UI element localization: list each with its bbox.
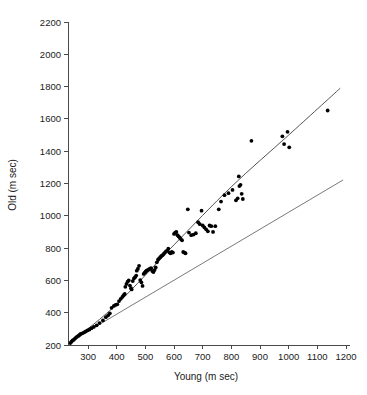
y-tick-label: 400 (45, 307, 61, 318)
x-tick-label: 800 (223, 351, 239, 362)
y-tick-label: 200 (45, 340, 61, 351)
data-point (286, 130, 290, 134)
data-point (139, 280, 143, 284)
data-point (194, 231, 198, 235)
data-point (236, 196, 240, 200)
x-tick-label: 300 (80, 351, 96, 362)
data-point (219, 200, 223, 204)
y-tick-label: 1800 (40, 81, 61, 92)
regression-fit-curve (69, 88, 341, 344)
x-tick-label: 700 (195, 351, 211, 362)
data-point (280, 134, 284, 138)
data-point (137, 264, 141, 268)
data-point (184, 251, 188, 255)
data-point (227, 191, 231, 195)
data-point (237, 174, 241, 178)
data-point (217, 207, 221, 211)
data-point (223, 193, 227, 197)
scatter-plot-figure: 2004006008001000120014001600180020002200… (0, 0, 367, 395)
x-tick-label: 400 (109, 351, 125, 362)
data-point (115, 302, 119, 306)
y-tick-label: 1200 (40, 178, 61, 189)
plot-canvas: 2004006008001000120014001600180020002200… (0, 0, 367, 395)
data-point (206, 229, 210, 233)
data-point (101, 319, 105, 323)
data-point (239, 183, 243, 187)
data-point (287, 145, 291, 149)
y-tick-label: 600 (45, 275, 61, 286)
y-axis-tick-labels: 2004006008001000120014001600180020002200 (40, 17, 61, 351)
data-point (213, 224, 217, 228)
data-point (171, 251, 175, 255)
x-axis-ticks (88, 345, 346, 349)
data-points-group (68, 109, 329, 345)
data-point (240, 192, 244, 196)
data-point (231, 188, 235, 192)
data-point (154, 266, 158, 270)
y-tick-label: 1600 (40, 113, 61, 124)
data-point (108, 311, 112, 315)
data-point (123, 292, 127, 296)
y-axis-title: Old (m sec) (7, 159, 18, 211)
y-tick-label: 1400 (40, 146, 61, 157)
x-axis-tick-labels: 300400500600700800900100011001200 (80, 351, 356, 362)
x-tick-label: 1000 (278, 351, 299, 362)
data-point (98, 321, 102, 325)
x-tick-label: 1200 (335, 351, 356, 362)
y-tick-label: 1000 (40, 210, 61, 221)
data-point (209, 224, 213, 228)
y-tick-label: 2200 (40, 17, 61, 28)
data-point (241, 197, 245, 201)
data-point (326, 109, 330, 113)
y-tick-label: 800 (45, 243, 61, 254)
data-point (130, 288, 134, 292)
x-tick-label: 1100 (307, 351, 327, 362)
x-tick-label: 600 (166, 351, 182, 362)
data-point (166, 247, 170, 251)
data-point (200, 209, 204, 213)
y-tick-label: 2000 (40, 49, 61, 60)
data-point (134, 274, 138, 278)
data-point (211, 230, 215, 234)
data-point (174, 230, 178, 234)
y-axis-ticks (64, 22, 68, 345)
data-point (180, 238, 184, 242)
identity-reference-line (69, 180, 344, 343)
data-point (186, 207, 190, 211)
x-tick-label: 500 (137, 351, 153, 362)
data-point (282, 142, 286, 146)
data-point (127, 279, 131, 283)
data-point (141, 284, 145, 288)
data-point (250, 139, 254, 143)
x-tick-label: 900 (252, 351, 268, 362)
x-axis-title: Young (m sec) (174, 371, 238, 382)
